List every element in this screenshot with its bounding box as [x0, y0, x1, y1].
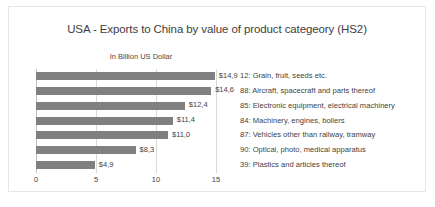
bar[interactable] — [36, 117, 173, 125]
bar-row: $4,9 — [36, 158, 216, 173]
bar[interactable] — [36, 87, 211, 95]
legend-item: 87: Vehicles other than railway, tramway — [240, 128, 430, 143]
bar[interactable] — [36, 161, 95, 169]
bar-value-label: $12,4 — [189, 100, 208, 109]
bar[interactable] — [36, 102, 185, 110]
bar-row: $11,4 — [36, 114, 216, 129]
bar-row: $14,6 — [36, 84, 216, 99]
chart-title: USA - Exports to China by value of produ… — [9, 23, 425, 35]
legend: 12: Grain, fruit, seeds etc.88: Aircraft… — [240, 69, 430, 173]
bar-value-label: $11,4 — [177, 115, 195, 124]
bar-value-label: $14,9 — [219, 71, 238, 80]
bar-row: $11,0 — [36, 128, 216, 143]
bar[interactable] — [36, 146, 136, 154]
bar[interactable] — [36, 72, 215, 80]
tick-label-0: 0 — [34, 175, 38, 184]
bar-value-label: $11,0 — [172, 130, 190, 139]
tick-label-10: 10 — [152, 175, 160, 184]
legend-item: 84: Machinery, engines, boilers — [240, 114, 430, 129]
bar[interactable] — [36, 131, 168, 139]
legend-item: 39: Plastics and articles thereof — [240, 158, 430, 173]
legend-item: 85: Electronic equipment, electrical mac… — [240, 99, 430, 114]
tick-label-5: 5 — [94, 175, 98, 184]
bar-value-label: $8,3 — [140, 145, 155, 154]
tick-label-15: 15 — [212, 175, 220, 184]
value-axis-ticks: 051015 — [36, 175, 216, 187]
bar-value-label: $14,6 — [215, 85, 234, 94]
bar-row: $8,3 — [36, 143, 216, 158]
legend-item: 88: Aircraft, spacecraft and parts there… — [240, 84, 430, 99]
legend-item: 12: Grain, fruit, seeds etc. — [240, 69, 430, 84]
bar-row: $12,4 — [36, 99, 216, 114]
chart-container: USA - Exports to China by value of produ… — [8, 6, 426, 192]
bar-value-label: $4,9 — [99, 160, 114, 169]
bar-row: $14,9 — [36, 69, 216, 84]
plot-area: $14,9$14,6$12,4$11,4$11,0$8,3$4,9 — [36, 69, 216, 173]
chart-subtitle: In Billion US Dollar — [71, 52, 211, 61]
legend-item: 90: Optical, photo, medical apparatus — [240, 143, 430, 158]
